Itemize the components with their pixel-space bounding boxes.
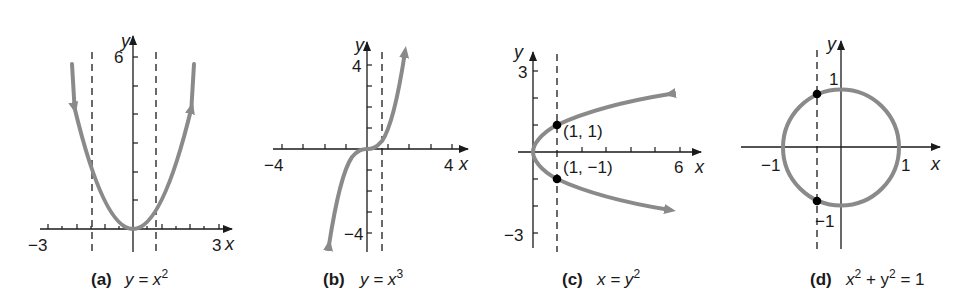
caption-equation: x2 + y2 = 1 [845,267,925,289]
x-tick-label-6: 6 [674,158,683,177]
y-axis-label: y [512,42,524,62]
point-1-neg1 [553,175,562,184]
x-axis-label: x [694,157,705,177]
panel-b-graph: y 4 −4 −4 4 x [264,35,469,254]
x-axis-label: x [930,154,941,174]
caption-c: (c) x = y2 [562,267,640,289]
x-tick-label-4: 4 [444,156,453,175]
x-tick-label-neg3: −3 [28,236,47,255]
x-ticks [582,147,680,152]
x-axis-label: x [458,154,469,174]
caption-label: (b) [323,270,345,289]
y-tick-label-neg1: −1 [815,212,834,231]
caption-label: (d) [810,270,832,289]
panel-c-graph: (1, 1) (1, −1) y 3 −3 6 x [504,42,705,252]
y-tick-label-neg4: −4 [344,225,363,244]
y-axis-label: y [825,34,837,54]
y-ticks [133,57,138,200]
x-tick-label-neg4: −4 [264,156,283,175]
y-tick-label-6: 6 [114,48,123,67]
caption-equation: y = x3 [359,267,403,289]
y-axis-label: y [353,35,365,55]
y-tick-label-neg3: −3 [504,226,523,245]
caption-d: (d) x2 + y2 = 1 [810,267,925,289]
caption-label: (a) [91,270,112,289]
y-tick-label-3: 3 [518,63,527,82]
point-1-1 [553,121,562,130]
intersection-point-top [813,90,822,99]
x-tick-label-neg1: −1 [761,156,780,175]
caption-label: (c) [562,270,583,289]
x-tick-label-1: 1 [901,156,910,175]
point-label-1-1: (1, 1) [563,122,603,141]
caption-equation: y = x2 [124,267,168,289]
figure-canvas: y 6 −3 3 x (a) y = x2 [0,0,957,307]
caption-equation: x = y2 [596,267,640,289]
panel-a-graph: y 6 −3 3 x [28,31,235,256]
point-label-1-neg1: (1, −1) [563,158,613,177]
y-tick-label-4: 4 [352,57,361,76]
y-tick-label-1: 1 [829,70,838,89]
caption-a: (a) y = x2 [91,267,168,289]
x-tick-label-3: 3 [212,236,221,255]
panel-d-graph: y 1 −1 −1 1 x [741,34,941,252]
caption-b: (b) y = x3 [323,267,403,289]
x-axis-label: x [224,234,235,254]
intersection-point-bottom [813,197,822,206]
